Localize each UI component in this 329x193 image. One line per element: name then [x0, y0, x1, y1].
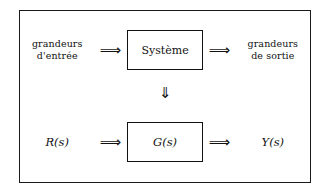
transfer-input-arrow-icon: ⟹ — [94, 135, 126, 150]
transfer-function-row: R(s) ⟹ G(s) ⟹ Y(s) — [20, 113, 310, 171]
input-quantities-label-line1: grandeurs — [20, 38, 94, 50]
transfer-function-block: G(s) — [127, 122, 203, 162]
diagram-frame: grandeurs d'entrée ⟹ Système ⟹ grandeurs… — [19, 10, 311, 183]
output-signal-label: Y(s) — [236, 135, 310, 149]
system-block-row: grandeurs d'entrée ⟹ Système ⟹ grandeurs… — [20, 21, 310, 79]
transfer-output-arrow-icon: ⟹ — [203, 135, 235, 150]
output-quantities-label-line2: de sortie — [236, 50, 310, 62]
equivalence-connector: ⇓ — [20, 83, 310, 102]
output-quantities-label: grandeurs de sortie — [236, 38, 310, 62]
input-quantities-label-line2: d'entrée — [20, 50, 94, 62]
down-double-arrow-icon: ⇓ — [159, 84, 172, 102]
input-quantities-label: grandeurs d'entrée — [20, 38, 94, 62]
input-signal-label: R(s) — [20, 135, 94, 149]
system-block: Système — [127, 30, 203, 70]
system-block-label: Système — [141, 44, 188, 57]
input-arrow-icon: ⟹ — [94, 43, 126, 58]
output-quantities-label-line1: grandeurs — [236, 38, 310, 50]
transfer-function-block-label: G(s) — [153, 135, 177, 149]
output-arrow-icon: ⟹ — [203, 43, 235, 58]
